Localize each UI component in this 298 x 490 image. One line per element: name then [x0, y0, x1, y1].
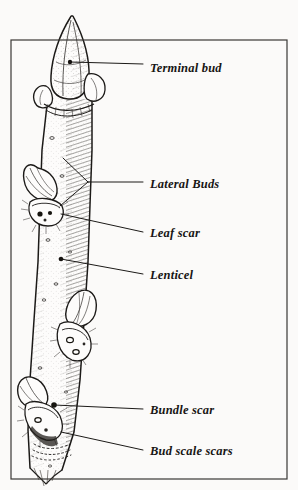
leader-dot-terminal-bud — [68, 60, 72, 64]
leader-bud-scale-scars — [61, 432, 143, 450]
label-lenticel: Lenticel — [150, 269, 193, 282]
label-lateral-buds: Lateral Buds — [150, 178, 219, 191]
leader-dot-lenticel — [59, 257, 63, 261]
twig-illustration — [0, 0, 298, 490]
label-bundle-scar: Bundle scar — [150, 404, 214, 417]
twig-diagram-figure: Terminal bud Lateral Buds Leaf scar Lent… — [0, 0, 298, 490]
bundle-scar-dot — [48, 211, 52, 215]
bundle-scar-dot — [37, 211, 42, 216]
label-leaf-scar: Leaf scar — [150, 227, 200, 240]
label-terminal-bud: Terminal bud — [150, 62, 222, 75]
label-bud-scale-scars: Bud scale scars — [150, 445, 233, 458]
